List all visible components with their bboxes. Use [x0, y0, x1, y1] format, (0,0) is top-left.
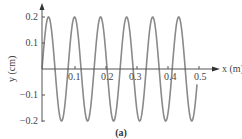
y-axis-arrow-icon: [40, 3, 45, 10]
y-tick-label: −0.2: [20, 115, 38, 126]
y-tick-label: 0.1: [26, 37, 39, 48]
y-axis-label: y (cm): [6, 56, 18, 82]
x-axis-label: x (m): [222, 63, 242, 75]
wave-chart: 0.2 0.1 −0.1 −0.2 0.1 0.2 0.3 0.4 0.5 x …: [0, 0, 242, 139]
figure-caption: (a): [115, 127, 127, 139]
x-tick-label: 0.4: [164, 71, 177, 82]
x-tick-label: 0.1: [68, 71, 81, 82]
y-tick-label: 0.2: [26, 11, 39, 22]
y-tick-label: −0.1: [20, 89, 38, 100]
x-tick-label: 0.2: [101, 71, 114, 82]
x-tick-label: 0.3: [129, 71, 142, 82]
x-axis-arrow-icon: [212, 67, 220, 72]
x-tick-label: 0.5: [194, 71, 207, 82]
